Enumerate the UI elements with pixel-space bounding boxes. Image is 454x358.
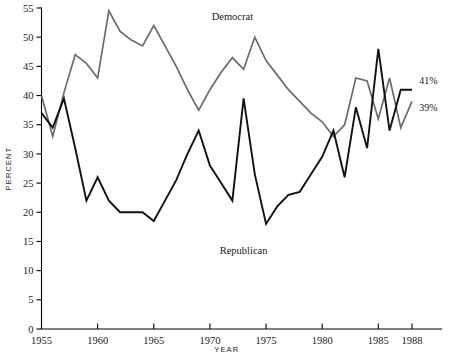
x-tick-label: 1960 xyxy=(87,335,108,346)
y-tick-label: 35 xyxy=(23,119,34,130)
x-tick-label: 1965 xyxy=(143,335,164,346)
series-line-democrat xyxy=(42,11,413,136)
y-tick-label: 15 xyxy=(23,236,34,247)
annotation-41: 41% xyxy=(419,75,437,86)
y-tick-label: 25 xyxy=(23,178,34,189)
y-tick-label: 45 xyxy=(23,61,34,72)
x-axis-title: YEAR xyxy=(214,345,239,354)
y-tick-label: 20 xyxy=(23,207,34,218)
y-tick-label: 55 xyxy=(23,3,34,14)
y-tick-label: 50 xyxy=(23,32,34,43)
x-tick-label: 1980 xyxy=(312,335,333,346)
y-tick-label: 40 xyxy=(23,90,34,101)
series-line-republican xyxy=(42,49,413,224)
annotation-39: 39% xyxy=(419,102,437,113)
y-tick-label: 10 xyxy=(23,265,34,276)
x-tick-label: 1985 xyxy=(368,335,389,346)
y-tick-label: 30 xyxy=(23,149,34,160)
y-tick-label: 5 xyxy=(28,294,33,305)
annotation-democrat: Democrat xyxy=(212,11,253,22)
annotation-republican: Republican xyxy=(220,245,269,256)
x-tick-label: 1955 xyxy=(31,335,52,346)
y-axis-title: PERCENT xyxy=(4,147,13,191)
chart-container: 0510152025303540455055195519601965197019… xyxy=(0,0,454,358)
line-chart: 0510152025303540455055195519601965197019… xyxy=(0,0,454,358)
y-tick-label: 0 xyxy=(28,324,33,335)
x-tick-label: 1975 xyxy=(256,335,277,346)
x-tick-label: 1988 xyxy=(402,335,423,346)
